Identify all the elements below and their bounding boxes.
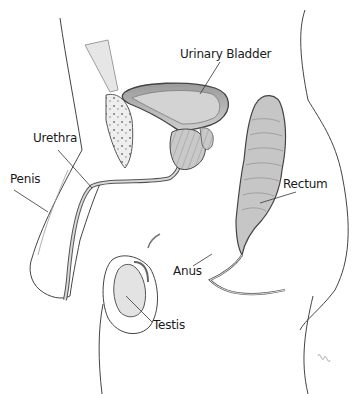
label-anus: Anus [173, 264, 202, 278]
prostate [170, 129, 205, 170]
thigh-outline [99, 304, 103, 394]
label-urinary-bladder: Urinary Bladder [180, 47, 271, 61]
label-testis: Testis [153, 318, 185, 332]
label-urethra: Urethra [33, 131, 77, 145]
leg-outline [304, 296, 313, 394]
label-rectum: Rectum [283, 177, 328, 191]
pubic-muscle [85, 40, 118, 92]
artist-signature [318, 354, 330, 361]
label-penis: Penis [10, 172, 40, 186]
rectum [236, 96, 286, 255]
pubic-bone [106, 94, 133, 168]
penis-shape [30, 150, 100, 298]
back-outline [300, 10, 348, 330]
anal-canal-inner [210, 255, 285, 294]
spermatic-cord [148, 234, 160, 248]
leader-penis [14, 190, 48, 212]
anatomy-diagram: Urinary Bladder Urethra Penis Rectum Anu… [0, 0, 360, 394]
